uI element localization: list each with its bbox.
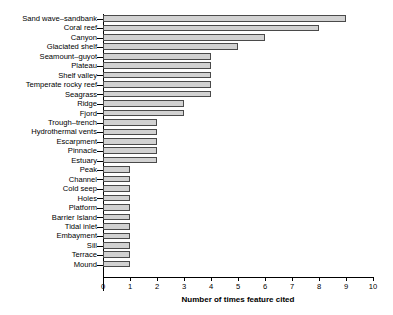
bar-chart: Sand wave–sandbankCoral reefCanyonGlacia…: [0, 0, 393, 315]
bar-row: Seagrass: [0, 90, 393, 99]
bar-row: Cold seep: [0, 184, 393, 193]
bar-row: Canyon: [0, 33, 393, 42]
bar: [103, 251, 130, 258]
bar-category-label: Canyon: [0, 33, 97, 42]
bar: [103, 91, 211, 98]
bar-row: Temperate rocky reef: [0, 80, 393, 89]
x-axis-tick-label: 3: [174, 282, 194, 292]
bar-category-label: Terrace: [0, 250, 97, 259]
bar-category-label: Embayment: [0, 231, 97, 240]
bar-row: Plateau: [0, 61, 393, 70]
x-axis-tick: [130, 277, 131, 281]
bar-category-label: Seagrass: [0, 90, 97, 99]
bar-category-label: Tidal inlet: [0, 222, 97, 231]
x-axis-title: Number of times feature cited: [0, 295, 393, 304]
bar-row: Seamount–guyot: [0, 52, 393, 61]
bar: [103, 119, 157, 126]
x-axis-tick: [373, 277, 374, 281]
x-axis-tick: [346, 277, 347, 281]
bar-category-label: Ridge: [0, 99, 97, 108]
bar: [103, 185, 130, 192]
bar: [103, 166, 130, 173]
bar: [103, 110, 184, 117]
bar: [103, 15, 346, 22]
bar-category-label: Estuary: [0, 156, 97, 165]
bar: [103, 129, 157, 136]
bar: [103, 43, 238, 50]
bar: [103, 53, 211, 60]
bar-row: Terrace: [0, 250, 393, 259]
bar: [103, 147, 157, 154]
bar-row: Ridge: [0, 99, 393, 108]
x-axis-tick: [238, 277, 239, 281]
plot-area: Sand wave–sandbankCoral reefCanyonGlacia…: [0, 0, 393, 315]
bar-category-label: Coral reef: [0, 23, 97, 32]
bar-category-label: Pinnacle: [0, 146, 97, 155]
bar-rows: Sand wave–sandbankCoral reefCanyonGlacia…: [0, 14, 393, 269]
bar-category-label: Sand wave–sandbank: [0, 14, 97, 23]
x-axis-title-text: Number of times feature cited: [182, 295, 295, 304]
bar-row: Trough–trench: [0, 118, 393, 127]
bar-row: Holes: [0, 194, 393, 203]
bar-category-label: Channel: [0, 175, 97, 184]
x-axis-tick: [157, 277, 158, 281]
bar: [103, 62, 211, 69]
bar-category-label: Fjord: [0, 109, 97, 118]
bar: [103, 72, 211, 79]
x-axis-tick: [265, 277, 266, 281]
bar-row: Shelf valley: [0, 71, 393, 80]
bar: [103, 157, 157, 164]
bar: [103, 176, 130, 183]
bar-row: Peak: [0, 165, 393, 174]
bar: [103, 81, 211, 88]
bar-row: Pinnacle: [0, 146, 393, 155]
x-axis-tick-label: 9: [336, 282, 356, 292]
bar: [103, 34, 265, 41]
x-axis-tick-label: 5: [228, 282, 248, 292]
bar: [103, 261, 130, 268]
x-axis-tick-label: 10: [363, 282, 383, 292]
bar-row: Mound: [0, 260, 393, 269]
bar-category-label: Trough–trench: [0, 118, 97, 127]
x-axis-tick-label: 1: [120, 282, 140, 292]
bar-category-label: Platform: [0, 203, 97, 212]
bar: [103, 195, 130, 202]
x-axis-tick: [184, 277, 185, 281]
bar-category-label: Peak: [0, 165, 97, 174]
bar: [103, 223, 130, 230]
bar-category-label: Seamount–guyot: [0, 52, 97, 61]
bar-row: Escarpment: [0, 137, 393, 146]
bar-row: Fjord: [0, 109, 393, 118]
bar-category-label: Temperate rocky reef: [0, 80, 97, 89]
bar-category-label: Cold seep: [0, 184, 97, 193]
x-axis-tick-label: 8: [309, 282, 329, 292]
bar-row: Estuary: [0, 156, 393, 165]
bar-category-label: Barrier Island: [0, 213, 97, 222]
bar: [103, 233, 130, 240]
bar-category-label: Hydrothermal vents: [0, 127, 97, 136]
bar-category-label: Glaciated shelf: [0, 42, 97, 51]
bar-row: Coral reef: [0, 23, 393, 32]
bar-row: Channel: [0, 175, 393, 184]
bar: [103, 138, 157, 145]
bar-row: Sand wave–sandbank: [0, 14, 393, 23]
bar-category-label: Plateau: [0, 61, 97, 70]
x-axis-tick: [211, 277, 212, 281]
x-axis-tick-label: 7: [282, 282, 302, 292]
bar-row: Sill: [0, 241, 393, 250]
bar-row: Hydrothermal vents: [0, 127, 393, 136]
bar: [103, 214, 130, 221]
bar-category-label: Mound: [0, 260, 97, 269]
x-axis-tick-label: 2: [147, 282, 167, 292]
bar-category-label: Escarpment: [0, 137, 97, 146]
x-axis-tick: [292, 277, 293, 281]
bar: [103, 25, 319, 32]
bar: [103, 242, 130, 249]
bar-category-label: Shelf valley: [0, 71, 97, 80]
bar: [103, 204, 130, 211]
x-axis-tick-label: 4: [201, 282, 221, 292]
bar-category-label: Sill: [0, 241, 97, 250]
bar-category-label: Holes: [0, 194, 97, 203]
bar-row: Platform: [0, 203, 393, 212]
x-axis-tick: [319, 277, 320, 281]
